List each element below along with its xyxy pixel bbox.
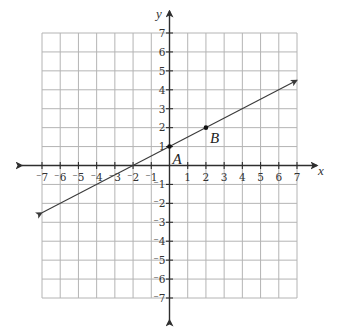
axes — [22, 11, 317, 320]
point-label-b: B — [210, 130, 219, 146]
point-b — [204, 125, 209, 130]
y-tick-label: ⁻2 — [153, 197, 165, 209]
x-axis-label: x — [317, 163, 324, 178]
y-tick-label: 2 — [159, 121, 166, 133]
y-tick-label: 6 — [159, 46, 166, 58]
x-tick-label: ⁻6 — [54, 171, 67, 183]
x-tick-labels: ⁻7⁻6⁻5⁻4⁻3⁻2⁻11234567 — [36, 171, 300, 183]
x-tick-label: ⁻7 — [36, 171, 48, 183]
y-tick-label: ⁻6 — [153, 273, 166, 285]
x-tick-label: 3 — [221, 171, 228, 183]
y-tick-label: 7 — [159, 27, 166, 39]
x-tick-label: 7 — [294, 171, 301, 183]
x-tick-label: ⁻5 — [72, 171, 84, 183]
y-tick-label: ⁻7 — [153, 292, 165, 304]
x-tick-label: 4 — [239, 171, 246, 183]
x-tick-label: 1 — [184, 171, 191, 183]
y-tick-label: 3 — [159, 103, 166, 115]
y-tick-label: ⁻3 — [153, 216, 165, 228]
plotted-points: AB — [167, 125, 219, 166]
x-tick-label: ⁻2 — [127, 171, 139, 183]
point-label-a: A — [172, 151, 183, 167]
y-tick-label: 4 — [159, 84, 166, 96]
y-tick-label: 5 — [159, 65, 166, 77]
x-tick-label: ⁻4 — [91, 171, 104, 183]
y-axis-label: y — [154, 6, 162, 21]
coordinate-plane: ⁻7⁻6⁻5⁻4⁻3⁻2⁻11234567 ⁻7⁻6⁻5⁻4⁻3⁻2⁻11234… — [0, 0, 343, 331]
point-a — [167, 144, 172, 149]
x-tick-label: 5 — [257, 171, 264, 183]
y-tick-label: ⁻4 — [153, 235, 166, 247]
y-tick-label: ⁻5 — [153, 254, 165, 266]
x-tick-label: 2 — [203, 171, 210, 183]
x-tick-label: 6 — [275, 171, 282, 183]
y-tick-label: ⁻1 — [153, 178, 165, 190]
